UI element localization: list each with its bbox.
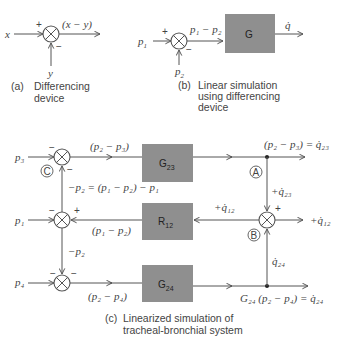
caption-c-line1: Linearized simulation of xyxy=(123,312,233,324)
diff-label: p₁ − p₂ xyxy=(189,23,222,35)
input-p2-label: p2 xyxy=(174,65,185,80)
neg-p2-label: −p₂ xyxy=(68,245,85,257)
summing-junction-b-icon xyxy=(259,212,275,228)
minus-sign: − xyxy=(71,268,77,279)
caption-a-line1: Differencing xyxy=(34,80,90,92)
minus-sign: − xyxy=(56,41,62,52)
output-label: (x − y) xyxy=(62,18,92,31)
out-top-label: (p₂ − p₃) = q̇₂₃ xyxy=(264,138,329,151)
summing-junction-mid-icon xyxy=(54,212,70,228)
plus-q23-label: +q̇₂₃ xyxy=(271,185,292,197)
minus-sign: − xyxy=(50,268,56,279)
caption-a-tag: (a) xyxy=(11,80,24,92)
plus-sign: + xyxy=(74,205,80,216)
q24-label: q̇₂₄ xyxy=(272,255,285,267)
input-y-label: y xyxy=(47,67,53,79)
plus-sign: + xyxy=(162,26,168,37)
minus-sign: − xyxy=(186,44,192,55)
input-x-label: x xyxy=(4,28,10,40)
caption-c-line2: tracheal-bronchial system xyxy=(123,324,243,336)
caption-b-line3: device xyxy=(198,101,229,113)
mid-eq-label: −p₂ = (p₁ − p₂) − p₁ xyxy=(68,181,159,194)
input-p1-label: p₁ xyxy=(14,214,25,226)
plus-q12-right-label: +q̇₁₂ xyxy=(310,214,331,226)
node-c: C xyxy=(41,165,53,177)
caption-b-tag: (b) xyxy=(178,79,191,91)
top-diff-label: (p₂ − p₃) xyxy=(90,140,129,153)
minus-sign: − xyxy=(49,205,55,216)
node-c-label: C xyxy=(44,166,51,177)
plus-q12-left-label: +q̇₁₂ xyxy=(214,201,235,213)
output-qdot-label: q̇ xyxy=(285,19,291,31)
summing-junction-c-icon xyxy=(54,149,70,165)
node-b: B xyxy=(248,229,260,241)
panel-c: p₃ − − (p₂ − p₃) C G23 (p₂ − p₃) = q̇₂₃ … xyxy=(14,138,331,336)
plus-sign: + xyxy=(36,19,42,30)
summing-junction-icon xyxy=(171,33,187,49)
minus-sign: − xyxy=(49,142,55,153)
input-p1-label: p1 xyxy=(137,35,147,50)
node-b-label: B xyxy=(251,230,258,241)
panel-a: x + − y (x − y) (a) Differencing device xyxy=(4,18,100,104)
minus-sign: − xyxy=(67,164,73,175)
bot-diff-label: (p₂ − p₄) xyxy=(88,290,127,303)
block-g-label: G xyxy=(245,29,253,40)
caption-c-tag: (c) xyxy=(105,312,117,324)
input-p3-label: p₃ xyxy=(14,151,25,163)
panel-b: p1 + − p2 p₁ − p₂ G q̇ (b) Linear simula… xyxy=(137,14,303,113)
node-a-label: A xyxy=(253,167,260,178)
diagram-canvas: x + − y (x − y) (a) Differencing device … xyxy=(0,0,345,349)
mid-diff-label: (p₁ − p₂) xyxy=(92,224,131,237)
summing-junction-icon xyxy=(43,26,59,42)
out-bot-label: G₂₄ (p₂ − p₄) = q̇₂₄ xyxy=(240,292,323,305)
node-a: A xyxy=(250,166,262,178)
plus-sign: + xyxy=(275,203,281,214)
block-g24 xyxy=(142,265,193,302)
summing-junction-bottom-icon xyxy=(54,275,70,291)
input-p4-label: p₄ xyxy=(14,276,25,288)
block-g23 xyxy=(142,144,193,182)
caption-a-line2: device xyxy=(34,92,65,104)
